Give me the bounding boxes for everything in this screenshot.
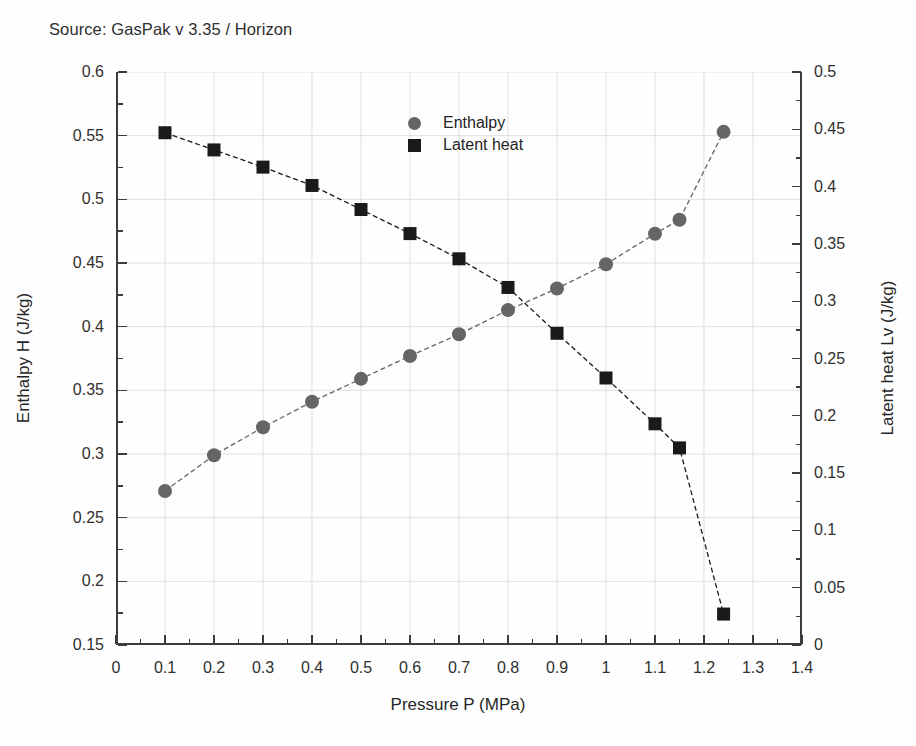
y-axis-right-tick — [792, 243, 801, 244]
y-axis-right-minor-tick — [796, 616, 801, 617]
x-axis-minor-tick — [189, 639, 190, 644]
y-axis-right-tick — [792, 71, 801, 72]
y-axis-left-tick-label: 0.55 — [73, 127, 104, 145]
y-axis-right-tick-label: 0.3 — [814, 292, 836, 310]
x-axis-minor-tick — [630, 639, 631, 644]
x-axis-tick-label: 0.6 — [399, 659, 421, 677]
y-axis-left-tick-label: 0.5 — [82, 190, 104, 208]
x-axis-tick — [654, 635, 655, 644]
y-axis-left-tick — [118, 199, 127, 200]
y-axis-left-tick — [118, 517, 127, 518]
x-axis-minor-tick — [238, 639, 239, 644]
y-axis-right-minor-tick — [796, 386, 801, 387]
chart-legend: Enthalpy Latent heat — [400, 108, 574, 161]
x-axis-tick-label: 0.9 — [546, 659, 568, 677]
y-axis-left-minor-tick — [118, 230, 123, 231]
y-axis-right-tick-label: 0.1 — [814, 521, 836, 539]
x-axis-tick — [311, 635, 312, 644]
y-axis-left-title: Enthalpy H (J/kg) — [14, 293, 34, 423]
y-axis-left-tick-label: 0.25 — [73, 509, 104, 527]
x-axis-tick — [262, 635, 263, 644]
y-axis-right-tick — [792, 415, 801, 416]
x-axis-tick-label: 1.3 — [742, 659, 764, 677]
x-axis-minor-tick — [679, 639, 680, 644]
y-axis-right-tick — [792, 301, 801, 302]
legend-item-latent-heat[interactable]: Latent heat — [408, 134, 568, 156]
y-axis-left-tick — [118, 135, 127, 136]
y-axis-right-minor-tick — [796, 157, 801, 158]
x-axis-tick — [213, 635, 214, 644]
x-axis-tick — [458, 635, 459, 644]
y-axis-left-tick — [118, 262, 127, 263]
x-axis-minor-tick — [532, 639, 533, 644]
x-axis-minor-tick — [385, 639, 386, 644]
x-axis-minor-tick — [777, 639, 778, 644]
y-axis-right-tick-label: 0.35 — [814, 235, 845, 253]
legend-label: Enthalpy — [443, 114, 505, 132]
y-axis-right-minor-tick — [796, 444, 801, 445]
y-axis-left-minor-tick — [118, 103, 123, 104]
x-axis-tick-label: 0.5 — [350, 659, 372, 677]
x-axis-tick — [360, 635, 361, 644]
x-axis-tick — [115, 635, 116, 644]
y-axis-right-tick-label: 0.45 — [814, 120, 845, 138]
y-axis-right-tick — [792, 530, 801, 531]
x-axis-tick — [605, 635, 606, 644]
y-axis-right-tick-label: 0.05 — [814, 579, 845, 597]
y-axis-left-minor-tick — [118, 612, 123, 613]
y-axis-right-tick-label: 0.5 — [814, 63, 836, 81]
x-axis-tick-label: 0.4 — [301, 659, 323, 677]
y-axis-right-minor-tick — [796, 558, 801, 559]
y-axis-right-minor-tick — [796, 100, 801, 101]
y-axis-left-tick-label: 0.45 — [73, 254, 104, 272]
x-axis-minor-tick — [434, 639, 435, 644]
x-axis-tick — [164, 635, 165, 644]
x-axis-tick-label: 0.2 — [203, 659, 225, 677]
y-axis-left-tick — [118, 71, 127, 72]
x-axis-tick — [556, 635, 557, 644]
x-axis-tick-label: 1.2 — [693, 659, 715, 677]
legend-label: Latent heat — [443, 136, 523, 154]
x-axis-tick-label: 1 — [602, 659, 611, 677]
y-axis-left-tick-label: 0.35 — [73, 381, 104, 399]
circle-marker-icon — [408, 117, 421, 130]
chart-figure: Source: GasPak v 3.35 / Horizon Enthalpy… — [0, 0, 916, 746]
square-marker-icon — [408, 139, 421, 152]
y-axis-left-tick-label: 0.2 — [82, 572, 104, 590]
y-axis-right-tick-label: 0.15 — [814, 464, 845, 482]
x-axis-minor-tick — [483, 639, 484, 644]
x-axis-tick — [703, 635, 704, 644]
x-axis-tick — [409, 635, 410, 644]
y-axis-right-tick-label: 0.25 — [814, 350, 845, 368]
x-axis-tick-label: 0.1 — [154, 659, 176, 677]
y-axis-right-title: Latent heat Lv (J/kg) — [878, 281, 898, 436]
y-axis-left-minor-tick — [118, 167, 123, 168]
y-axis-right-tick — [792, 129, 801, 130]
x-axis-tick-label: 0 — [112, 659, 121, 677]
x-axis-minor-tick — [728, 639, 729, 644]
x-axis-tick-label: 1.4 — [791, 659, 813, 677]
x-axis-tick-label: 0.7 — [448, 659, 470, 677]
source-note: Source: GasPak v 3.35 / Horizon — [49, 20, 292, 39]
y-axis-right-tick — [792, 186, 801, 187]
y-axis-right-tick-label: 0 — [814, 636, 823, 654]
y-axis-left-tick — [118, 390, 127, 391]
y-axis-right-minor-tick — [796, 272, 801, 273]
x-axis-minor-tick — [287, 639, 288, 644]
y-axis-left-minor-tick — [118, 421, 123, 422]
y-axis-left-tick — [118, 326, 127, 327]
y-axis-right-minor-tick — [796, 215, 801, 216]
y-axis-left-tick — [118, 644, 127, 645]
y-axis-left-tick-label: 0.15 — [73, 636, 104, 654]
x-axis-tick-label: 0.8 — [497, 659, 519, 677]
y-axis-right-tick-label: 0.4 — [814, 178, 836, 196]
x-axis-minor-tick — [581, 639, 582, 644]
x-axis-minor-tick — [140, 639, 141, 644]
y-axis-right-tick-label: 0.2 — [814, 407, 836, 425]
y-axis-left-tick-label: 0.3 — [82, 445, 104, 463]
y-axis-left-minor-tick — [118, 485, 123, 486]
x-axis-tick — [752, 635, 753, 644]
x-axis-minor-tick — [336, 639, 337, 644]
legend-item-enthalpy[interactable]: Enthalpy — [408, 112, 568, 134]
y-axis-left-minor-tick — [118, 549, 123, 550]
